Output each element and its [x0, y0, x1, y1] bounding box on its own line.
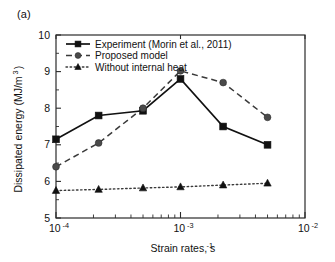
x-tick-label: 10	[49, 222, 61, 234]
x-axis-title-exponent: -1	[207, 241, 214, 250]
x-tick-label: 10	[298, 222, 310, 234]
legend-label-1: Proposed model	[95, 50, 168, 61]
y-axis-title-close: )	[12, 66, 24, 70]
data-marker-square	[53, 136, 60, 143]
y-tick-label: 6	[44, 175, 50, 187]
chart-canvas: 567891010-410-310-2Strain rates, s-1Diss…	[0, 0, 335, 262]
data-marker-circle	[53, 163, 60, 170]
x-tick-label-exponent: -3	[187, 221, 194, 230]
y-tick-label: 8	[44, 102, 50, 114]
data-marker-square	[95, 112, 102, 119]
y-tick-label: 9	[44, 65, 50, 77]
data-marker-circle	[95, 140, 102, 147]
y-tick-label: 7	[44, 138, 50, 150]
data-marker-circle	[140, 105, 147, 112]
data-marker-triangle	[52, 187, 59, 194]
y-tick-label: 10	[38, 29, 50, 41]
series-line-1	[56, 71, 268, 167]
x-tick-label-exponent: -2	[312, 221, 319, 230]
legend-label-2: Without internal heat	[95, 62, 187, 73]
data-marker-triangle	[139, 184, 146, 191]
x-tick-label: 10	[174, 222, 186, 234]
figure-panel: (a) 567891010-410-310-2Strain rates, s-1…	[0, 0, 335, 262]
data-marker-square	[75, 41, 81, 47]
data-marker-square	[264, 141, 271, 148]
legend-label-0: Experiment (Morin et al., 2011)	[95, 39, 232, 50]
y-axis-title: Dissipated energy (MJ/m	[12, 76, 24, 192]
data-marker-circle	[75, 53, 81, 59]
data-marker-circle	[264, 114, 271, 121]
data-marker-circle	[220, 79, 227, 86]
data-marker-square	[177, 76, 184, 83]
x-tick-label-exponent: -4	[63, 221, 70, 230]
y-axis-title-exponent: 3	[11, 70, 20, 74]
data-marker-square	[220, 123, 227, 130]
series-line-2	[56, 183, 268, 190]
